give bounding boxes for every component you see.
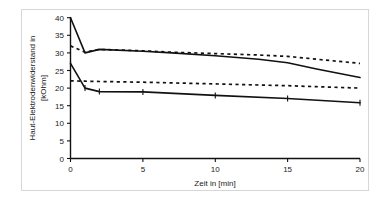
y-tick-label-5: 5 <box>60 137 65 146</box>
y-tick-label-20: 20 <box>55 84 64 93</box>
y-tick-label-40: 40 <box>55 14 64 23</box>
y-tick-label-0: 0 <box>60 155 65 164</box>
series-upper-dashed <box>71 46 361 64</box>
y-axis-title-line1: Haut-Elektrodenwiderstand in <box>28 36 37 141</box>
y-tick-label-10: 10 <box>55 119 64 128</box>
x-axis-title: Zeit in [min] <box>194 179 235 188</box>
y-tick-label-25: 25 <box>55 67 64 76</box>
figure-container: 40 35 30 25 20 15 10 5 0 0 5 10 15 20 Ze… <box>0 0 383 209</box>
x-tick-label-10: 10 <box>211 165 220 174</box>
x-tick-label-15: 15 <box>283 165 292 174</box>
y-axis-title-line2: [kOhm] <box>39 75 48 101</box>
lower-solid-point-markers <box>71 60 361 105</box>
x-tick-label-5: 5 <box>141 165 146 174</box>
line-chart: 40 35 30 25 20 15 10 5 0 0 5 10 15 20 Ze… <box>0 0 383 209</box>
x-tick-label-20: 20 <box>356 165 365 174</box>
series-upper-solid <box>71 18 361 78</box>
y-tick-label-30: 30 <box>55 49 64 58</box>
y-tick-label-35: 35 <box>55 31 64 40</box>
x-tick-label-0: 0 <box>68 165 73 174</box>
series-lower-dashed <box>71 81 361 88</box>
y-tick-label-15: 15 <box>55 102 64 111</box>
